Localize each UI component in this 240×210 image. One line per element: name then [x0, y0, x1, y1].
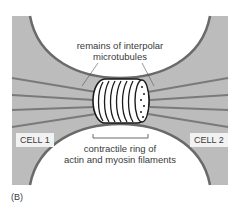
microtubules-label: remains of interpolar microtubules	[70, 40, 170, 62]
ring-label-line2: actin and myosin filaments	[60, 154, 180, 165]
cell2-label: CELL 2	[190, 133, 228, 147]
contractile-ring	[93, 79, 149, 123]
microtubules-label-line2: microtubules	[70, 51, 170, 62]
panel-label: (B)	[11, 192, 23, 202]
cytokinesis-diagram: remains of interpolar microtubules contr…	[0, 0, 240, 210]
cell1-label: CELL 1	[16, 133, 54, 147]
ring-label-line1: contractile ring of	[60, 143, 180, 154]
diagram-graphic	[0, 0, 240, 210]
contractile-ring-label: contractile ring of actin and myosin fil…	[60, 143, 180, 165]
microtubules-label-line1: remains of interpolar	[70, 40, 170, 51]
